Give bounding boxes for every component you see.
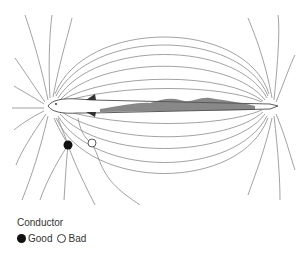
legend-item-bad: Bad <box>57 233 86 244</box>
good-conductor-icon <box>64 141 73 150</box>
legend-label-bad: Bad <box>68 233 86 244</box>
legend-item-good: Good <box>17 233 52 244</box>
electric-field-diagram <box>0 0 303 205</box>
bad-conductor-icon <box>88 139 96 147</box>
legend: Good Bad <box>17 233 86 244</box>
legend-label-good: Good <box>28 233 52 244</box>
legend-title: Conductor <box>17 217 63 228</box>
fish <box>48 94 278 117</box>
filled-circle-icon <box>17 234 26 243</box>
open-circle-icon <box>57 234 66 243</box>
